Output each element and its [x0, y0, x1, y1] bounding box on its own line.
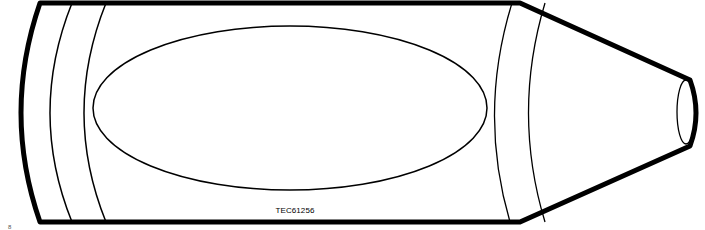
crayon-outline — [0, 0, 705, 230]
diagram-caption: TEC61256 — [265, 206, 325, 215]
crayon-body-outline — [21, 3, 696, 222]
crayon-diagram: TEC61256 8 — [0, 0, 705, 230]
corner-mark: 8 — [8, 224, 11, 230]
